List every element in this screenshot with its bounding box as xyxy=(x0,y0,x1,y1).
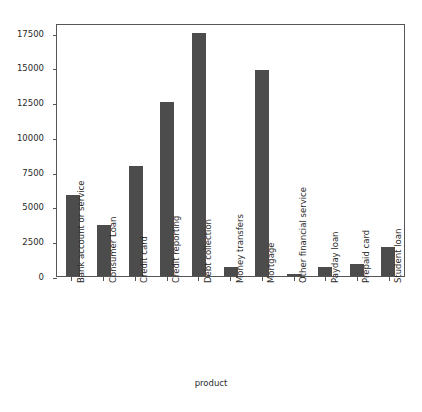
x-label-slot: Mortgage xyxy=(246,283,278,375)
x-axis-tick-mark xyxy=(325,277,326,281)
x-label-slot: Prepaid card xyxy=(342,283,374,375)
x-axis-tick-label: Bank account or service xyxy=(76,181,86,283)
x-label-slot: Bank account or service xyxy=(56,283,88,375)
x-axis-tick-label: Other financial service xyxy=(298,187,308,283)
y-axis-tick-mark xyxy=(53,174,57,175)
x-axis-title: product xyxy=(0,378,422,388)
y-axis-tick-mark xyxy=(53,69,57,70)
x-label-slot: Payday loan xyxy=(310,283,342,375)
x-axis-tick-mark xyxy=(71,277,72,281)
x-axis-tick-label: Prepaid card xyxy=(361,230,371,283)
x-axis-tick-label: Debt collection xyxy=(203,219,213,283)
x-label-slot: Debt collection xyxy=(183,283,215,375)
x-axis-tick-label: Payday loan xyxy=(330,232,340,283)
x-axis-tick-mark xyxy=(357,277,358,281)
y-axis-tick-mark xyxy=(53,35,57,36)
bar-slot xyxy=(246,25,278,276)
y-axis-tick-label: 10000 xyxy=(17,133,44,143)
x-axis-tick-mark xyxy=(262,277,263,281)
y-axis-tick-label: 12500 xyxy=(17,98,44,108)
y-axis-tick-label: 2500 xyxy=(22,237,44,247)
x-label-slot: Money transfers xyxy=(215,283,247,375)
x-axis-tick-label: Credit reporting xyxy=(171,216,181,283)
x-label-slot: Other financial service xyxy=(278,283,310,375)
x-axis-tick-mark xyxy=(230,277,231,281)
y-axis-tick-mark xyxy=(53,243,57,244)
x-axis-tick-label: Credit card xyxy=(139,236,149,283)
y-axis-tick-label: 17500 xyxy=(17,29,44,39)
bar-chart-figure: 025005000750010000125001500017500 Bank a… xyxy=(0,0,422,412)
x-label-slot: Consumer Loan xyxy=(88,283,120,375)
y-axis-tick-mark xyxy=(53,139,57,140)
y-axis-tick-mark xyxy=(53,104,57,105)
x-axis-tick-label: Student loan xyxy=(393,229,403,283)
x-label-slot: Credit card xyxy=(119,283,151,375)
x-label-slot: Student loan xyxy=(373,283,405,375)
x-axis-tick-mark xyxy=(198,277,199,281)
x-axis-tick-mark xyxy=(389,277,390,281)
y-axis-tick-label: 15000 xyxy=(17,63,44,73)
x-axis-tick-mark xyxy=(167,277,168,281)
x-label-slot: Credit reporting xyxy=(151,283,183,375)
y-axis-tick-labels: 025005000750010000125001500017500 xyxy=(0,24,50,277)
x-axis-tick-label: Money transfers xyxy=(235,214,245,283)
x-axis-tick-label: Mortgage xyxy=(266,242,276,283)
x-axis-tick-mark xyxy=(294,277,295,281)
x-axis-tick-mark xyxy=(103,277,104,281)
x-axis-tick-label: Consumer Loan xyxy=(108,217,118,283)
y-axis-tick-label: 0 xyxy=(39,272,44,282)
y-axis-tick-label: 5000 xyxy=(22,202,44,212)
x-axis-tick-mark xyxy=(135,277,136,281)
y-axis-tick-label: 7500 xyxy=(22,168,44,178)
y-axis-tick-mark xyxy=(53,208,57,209)
x-axis-tick-labels: Bank account or serviceConsumer LoanCred… xyxy=(56,283,405,375)
